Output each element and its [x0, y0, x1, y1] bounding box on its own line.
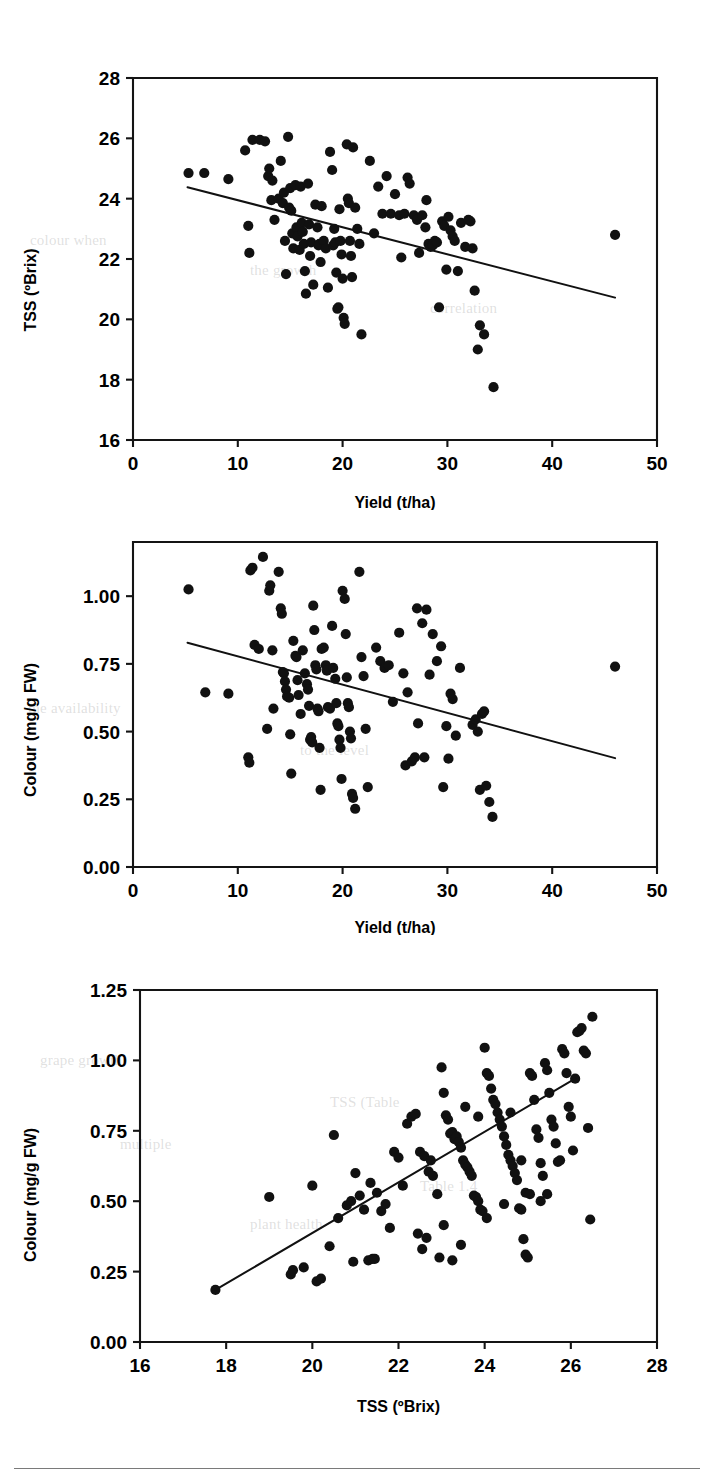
data-point: [542, 1065, 552, 1075]
data-point: [365, 156, 375, 166]
data-point: [455, 663, 465, 673]
x-tick-label: 18: [216, 1355, 237, 1376]
data-point: [277, 609, 287, 619]
data-point: [313, 706, 323, 716]
data-point: [516, 1155, 526, 1165]
data-point: [296, 709, 306, 719]
data-point: [501, 1140, 511, 1150]
data-point: [380, 1199, 390, 1209]
data-point: [421, 1233, 431, 1243]
data-point: [439, 1220, 449, 1230]
data-point: [421, 605, 431, 615]
data-point: [432, 237, 442, 247]
data-point: [428, 629, 438, 639]
data-point: [254, 644, 264, 654]
data-point: [610, 661, 620, 671]
data-point: [414, 248, 424, 258]
data-point: [276, 156, 286, 166]
data-point: [443, 1114, 453, 1124]
data-point: [518, 1234, 528, 1244]
data-point: [450, 236, 460, 246]
data-point: [421, 195, 431, 205]
data-point: [265, 580, 275, 590]
data-point: [568, 1145, 578, 1155]
data-point: [398, 668, 408, 678]
data-point: [424, 670, 434, 680]
data-point: [413, 718, 423, 728]
data-point: [267, 175, 277, 185]
data-point: [451, 731, 461, 741]
data-point: [345, 236, 355, 246]
data-point: [262, 724, 272, 734]
x-tick-label: 50: [646, 453, 667, 474]
data-point: [399, 209, 409, 219]
data-point: [551, 1138, 561, 1148]
data-point: [244, 758, 254, 768]
y-tick-label: 0.75: [90, 1121, 127, 1142]
data-point: [385, 1223, 395, 1233]
data-point: [281, 269, 291, 279]
data-point: [479, 329, 489, 339]
data-point: [487, 812, 497, 822]
data-point: [453, 266, 463, 276]
data-point: [312, 222, 322, 232]
data-point: [405, 178, 415, 188]
data-point: [267, 645, 277, 655]
data-point: [356, 329, 366, 339]
data-point: [411, 1109, 421, 1119]
data-point: [315, 257, 325, 267]
data-point: [200, 687, 210, 697]
data-point: [432, 656, 442, 666]
data-point: [333, 302, 343, 312]
data-point: [247, 563, 257, 573]
data-point: [441, 721, 451, 731]
data-point: [363, 782, 373, 792]
x-tick-label: 40: [542, 880, 563, 901]
data-point: [285, 729, 295, 739]
chart-panel-colour-vs-tss: 16182022242628 0.000.250.500.751.001.25 …: [0, 960, 714, 1440]
data-point: [327, 165, 337, 175]
data-point: [499, 1199, 509, 1209]
x-tick-label: 20: [302, 1355, 323, 1376]
data-point: [342, 672, 352, 682]
data-point: [428, 1171, 438, 1181]
data-point: [308, 601, 318, 611]
data-point: [199, 168, 209, 178]
y-tick-label: 1.00: [83, 586, 120, 607]
data-point: [467, 1171, 477, 1181]
data-point: [479, 706, 489, 716]
data-point: [288, 1265, 298, 1275]
data-point: [583, 1123, 593, 1133]
data-point: [365, 1178, 375, 1188]
data-point: [280, 236, 290, 246]
data-point: [356, 652, 366, 662]
data-point: [340, 594, 350, 604]
data-point: [370, 1254, 380, 1264]
data-point: [371, 643, 381, 653]
data-point: [301, 289, 311, 299]
data-point: [344, 702, 354, 712]
data-point: [340, 319, 350, 329]
data-point: [317, 201, 327, 211]
data-point: [434, 1252, 444, 1262]
data-point: [527, 1071, 537, 1081]
data-point: [484, 797, 494, 807]
data-point: [441, 264, 451, 274]
data-point: [323, 283, 333, 293]
data-point: [264, 163, 274, 173]
y-tick-label: 0.00: [83, 857, 120, 878]
data-point: [300, 266, 310, 276]
x-tick-label: 30: [437, 880, 458, 901]
data-point: [348, 1257, 358, 1267]
data-point: [475, 320, 485, 330]
data-point: [305, 251, 315, 261]
data-point: [473, 344, 483, 354]
y-tick-label: 0.25: [90, 1262, 127, 1283]
data-point: [240, 145, 250, 155]
scatter-plot-2: 01020304050 0.000.250.500.751.00 Yield (…: [0, 515, 714, 935]
y-axis-title: Colour (mg/g FW): [22, 1128, 39, 1262]
data-point: [303, 178, 313, 188]
data-point: [315, 785, 325, 795]
data-point: [311, 664, 321, 674]
y-tick-label: 0.00: [90, 1332, 127, 1353]
